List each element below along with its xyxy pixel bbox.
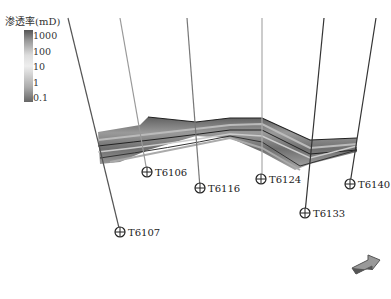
well-marker-icon[interactable] xyxy=(300,208,310,218)
legend-tick-0.1: 0.1 xyxy=(33,93,48,103)
well-label: T6107 xyxy=(128,227,160,238)
reservoir-band xyxy=(98,117,357,170)
legend-tick-1: 1 xyxy=(33,78,39,88)
well-label: T6124 xyxy=(269,174,301,185)
well-marker-icon[interactable] xyxy=(115,227,125,237)
well-marker-icon[interactable] xyxy=(345,179,355,189)
legend-tick-10: 10 xyxy=(33,62,45,72)
permeability-color-bar xyxy=(24,30,33,102)
well-trajectory-T6140 xyxy=(350,18,376,184)
well-label: T6140 xyxy=(358,179,390,190)
well-marker-icon[interactable] xyxy=(195,183,205,193)
legend-tick-1000: 1000 xyxy=(33,31,57,41)
well-marker-icon[interactable] xyxy=(142,167,152,177)
well-trajectory-T6133 xyxy=(305,18,324,213)
well-trajectory-T6107 xyxy=(68,18,120,232)
well-trajectory-T6116 xyxy=(187,18,200,188)
well-label: T6133 xyxy=(313,208,345,219)
cross-section-diagram xyxy=(0,0,391,299)
well-label: T6106 xyxy=(155,167,187,178)
legend-tick-100: 100 xyxy=(33,47,51,57)
well-label: T6116 xyxy=(208,183,240,194)
legend-title: 渗透率(mD) xyxy=(5,13,60,28)
well-marker-icon[interactable] xyxy=(256,174,266,184)
3d-orientation-arrow-icon[interactable] xyxy=(350,252,382,276)
